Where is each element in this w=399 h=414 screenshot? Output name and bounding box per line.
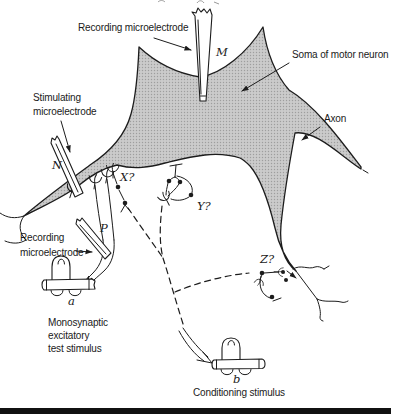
label-stimulator-b: b xyxy=(233,372,240,386)
label-recording-lower-line1: Recording xyxy=(20,232,64,243)
label-conditioning-stimulus: Conditioning stimulus xyxy=(193,387,285,398)
descending-process-fibers xyxy=(293,266,348,321)
label-test-stimulus-line2: excitatory xyxy=(48,330,89,341)
conditioning-pathway-dashed xyxy=(128,206,249,327)
bottom-edge-bar xyxy=(0,408,391,414)
cropped-caption-fragment xyxy=(158,1,219,5)
conditioning-arrow xyxy=(179,328,212,363)
label-electrode-m: M xyxy=(215,45,229,59)
axon-cut-end-mark xyxy=(363,170,368,173)
label-test-stimulus-line1: Monosynaptic xyxy=(48,317,108,328)
label-recording-lower-line2: microelectrode xyxy=(20,247,84,258)
label-stimulating-line1: Stimulating xyxy=(33,92,81,103)
label-synapse-y: Y? xyxy=(197,199,212,213)
label-synapse-x: X? xyxy=(119,170,135,184)
stimulator-device-a xyxy=(42,256,95,296)
motor-neuron-soma-shape xyxy=(24,27,361,271)
figure-canvas: Recording microelectrode M Soma of motor… xyxy=(0,0,399,414)
label-test-stimulus-line3: test stimulus xyxy=(48,343,102,354)
label-electrode-n: N xyxy=(51,158,63,172)
label-recording-microelectrode-top: Recording microelectrode xyxy=(78,22,189,33)
label-electrode-p: P xyxy=(99,221,108,235)
synapse-y-group xyxy=(157,164,194,208)
label-axon: Axon xyxy=(324,113,346,124)
synapse-z-group xyxy=(254,267,296,301)
label-stimulator-a: a xyxy=(68,294,75,308)
label-soma-of-motor-neuron: Soma of motor neuron xyxy=(292,49,389,60)
z-pathway-arrow xyxy=(287,271,296,278)
label-synapse-z: Z? xyxy=(259,252,275,266)
recording-top-arrow xyxy=(154,38,191,50)
stimulator-device-b xyxy=(212,338,265,375)
label-stimulating-line2: microelectrode xyxy=(33,106,97,117)
